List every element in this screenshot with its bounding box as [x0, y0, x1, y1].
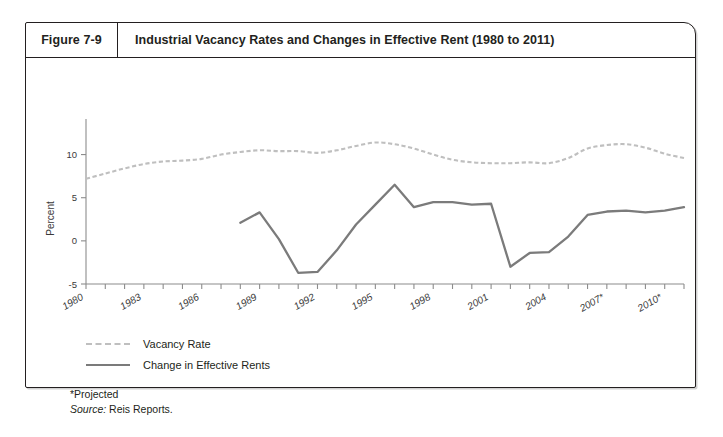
figure-frame: Figure 7-9 Industrial Vacancy Rates and … [25, 22, 696, 388]
footnote-source: Source: Reis Reports. [70, 402, 173, 417]
x-tick-label-2007-projected: 2007* [577, 291, 607, 315]
chart-legend: Vacancy Rate Change in Effective Rents [86, 333, 270, 375]
x-tick-label-1998: 1998 [407, 291, 432, 312]
series-line-vacancy-rate [86, 142, 684, 178]
x-tick-label-2010-projected: 2010* [635, 291, 665, 315]
figure-number-cell: Figure 7-9 [26, 23, 118, 57]
x-tick-label-1992: 1992 [292, 291, 317, 312]
x-tick-label-2001: 2001 [464, 291, 490, 312]
legend-swatch-dashed-line-icon [86, 343, 130, 345]
figure-footnotes: *Projected Source: Reis Reports. [70, 387, 173, 417]
footnote-projected: *Projected [70, 387, 173, 402]
y-axis: -50510 [66, 119, 86, 290]
y-tick-label-10: 10 [66, 149, 77, 160]
y-tick-label-5: 5 [72, 192, 77, 203]
series-line-change-in-effective-rents [240, 185, 684, 273]
y-axis-title: Percent [45, 201, 56, 236]
x-tick-label-1986: 1986 [176, 291, 201, 312]
legend-swatch-solid-line-icon [86, 364, 130, 366]
figure-title: Industrial Vacancy Rates and Changes in … [135, 33, 555, 47]
x-axis: 1980198319861989199219951998200120042007… [60, 284, 684, 314]
chart-series-group [86, 142, 684, 272]
x-tick-label-1983: 1983 [118, 291, 143, 312]
y-tick-label--5: -5 [69, 279, 77, 290]
source-prefix: Source: [70, 403, 106, 415]
figure-title-cell: Industrial Vacancy Rates and Changes in … [118, 23, 695, 57]
legend-label-change-in-effective-rents: Change in Effective Rents [143, 359, 270, 371]
source-value: Reis Reports. [109, 403, 173, 415]
figure-number-label: Figure 7-9 [41, 33, 102, 47]
chart-region: -50510 198019831986198919921995199820012… [26, 58, 695, 389]
x-tick-label-1980: 1980 [60, 291, 85, 312]
y-axis-title-label: Percent [45, 201, 56, 236]
legend-label-vacancy-rate: Vacancy Rate [143, 338, 211, 350]
y-tick-label-0: 0 [72, 235, 77, 246]
legend-item-change-in-effective-rents: Change in Effective Rents [86, 354, 270, 375]
x-tick-label-2004: 2004 [522, 291, 548, 312]
x-tick-label-1995: 1995 [350, 291, 375, 312]
x-tick-label-1989: 1989 [234, 291, 259, 312]
figure-header: Figure 7-9 Industrial Vacancy Rates and … [26, 23, 695, 58]
line-chart-plot: -50510 198019831986198919921995199820012… [26, 58, 697, 318]
legend-item-vacancy-rate: Vacancy Rate [86, 333, 270, 354]
